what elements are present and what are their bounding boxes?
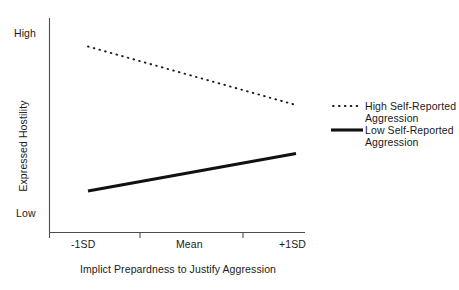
- y-axis-title: Expressed Hostility: [17, 76, 29, 216]
- x-axis-tick-label-mean: Mean: [176, 238, 203, 250]
- y-axis-tick-label-low: Low: [16, 207, 36, 219]
- legend-item-label-low-self-reported-aggression: Low Self-Reported Aggression: [365, 124, 459, 149]
- interaction-line-chart: Expressed Hostility High Low -1SD Mean +…: [0, 0, 459, 290]
- y-axis-tick-label-high: High: [14, 27, 36, 39]
- series-line-low-self-reported-aggression: [88, 154, 296, 192]
- x-axis-tick-label-minus-1sd: -1SD: [71, 238, 95, 250]
- legend-item-label-high-self-reported-aggression: High Self-Reported Aggression: [365, 100, 459, 125]
- x-axis-tick-label-plus-1sd: +1SD: [279, 238, 306, 250]
- x-axis-title: Implict Prepardness to Justify Aggressio…: [63, 263, 293, 275]
- series-line-high-self-reported-aggression: [88, 47, 296, 106]
